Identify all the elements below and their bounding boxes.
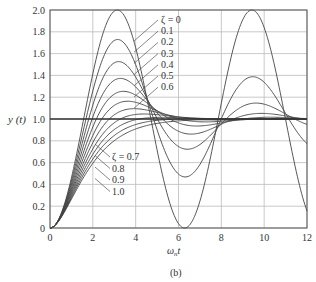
zeta-label: ζ = 0 <box>161 14 181 26</box>
x-tick-label: 6 <box>176 232 181 243</box>
y-axis-label: y (t) <box>7 113 26 126</box>
leader-line <box>95 156 110 169</box>
y-tick-label: 0.8 <box>33 135 46 146</box>
zeta-label: 0.3 <box>161 48 174 59</box>
y-tick-label: 1.0 <box>33 114 46 125</box>
leader-line <box>134 42 158 63</box>
x-tick-label: 12 <box>302 232 312 243</box>
y-tick-label: 1.2 <box>33 92 46 103</box>
zeta-label: 0.9 <box>112 174 125 185</box>
y-tick-label: 0.4 <box>33 179 46 190</box>
y-tick-label: 1.8 <box>33 26 46 37</box>
figure-caption: (b) <box>170 267 182 279</box>
zeta-label: 0.4 <box>161 59 174 70</box>
leader-line <box>134 31 158 52</box>
x-axis-label: ωnt <box>167 245 181 258</box>
zeta-label: 1.0 <box>112 186 125 197</box>
x-tick-label: 0 <box>48 232 53 243</box>
zeta-label: 0.5 <box>161 70 174 81</box>
x-tick-label: 10 <box>259 232 269 243</box>
y-tick-label: 0 <box>40 223 45 234</box>
step-response-chart: 00.20.40.60.81.01.21.41.61.82.0024681012… <box>0 0 316 282</box>
zeta-label: 0.1 <box>161 25 174 36</box>
y-tick-label: 2.0 <box>33 5 46 16</box>
y-tick-label: 1.6 <box>33 48 46 59</box>
zeta-label: ζ = 0.7 <box>112 151 139 163</box>
x-tick-label: 2 <box>90 232 95 243</box>
leader-line <box>134 20 158 41</box>
leader-line <box>95 179 110 192</box>
x-tick-label: 8 <box>219 232 224 243</box>
zeta-label: 0.2 <box>161 36 174 47</box>
zeta-annotations: ζ = 00.10.20.30.40.50.6ζ = 0.70.80.91.0 <box>95 14 181 197</box>
y-tick-label: 0.6 <box>33 157 46 168</box>
zeta-label: 0.8 <box>112 163 125 174</box>
y-tick-label: 1.4 <box>33 70 46 81</box>
zeta-label: 0.6 <box>161 81 174 92</box>
x-tick-label: 4 <box>133 232 138 243</box>
leader-line <box>95 167 110 180</box>
leader-line <box>134 87 158 108</box>
y-tick-label: 0.2 <box>33 201 46 212</box>
